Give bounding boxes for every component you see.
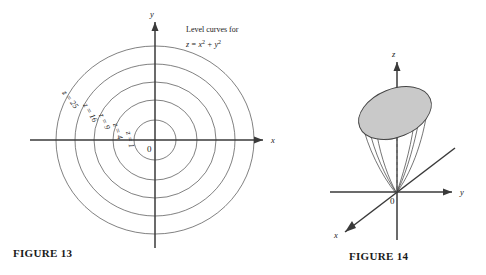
figure-14-x-axis-label: x bbox=[333, 230, 338, 240]
level-label-z9: z = 9 bbox=[97, 111, 112, 131]
figure-13-origin-label: 0 bbox=[147, 144, 152, 154]
annotation-eq-mid: + y bbox=[205, 40, 218, 49]
level-curves-annotation-line1: Level curves for bbox=[186, 25, 239, 34]
annotation-eq-base: z = x bbox=[185, 40, 203, 49]
y-axis-arrowhead bbox=[152, 22, 159, 31]
level-label-z25: z = 25 bbox=[60, 88, 80, 110]
cone-ruling-2 bbox=[377, 135, 396, 192]
figure-14-caption: FIGURE 14 bbox=[349, 250, 408, 262]
figure-13-y-axis-label: y bbox=[149, 9, 154, 19]
level-label-z1: z = 1 bbox=[124, 130, 136, 149]
figure-14-x-axis-line bbox=[345, 148, 455, 232]
figure-14-z-axis-label: z bbox=[391, 49, 396, 59]
figure-14-graphic: y z x 0 bbox=[330, 49, 464, 240]
level-curves-annotation-line2: z = x2 + y2 bbox=[185, 39, 221, 49]
figure-13-graphic: x y 0 Level curves for z = x2 + y2 z = 2… bbox=[0, 0, 486, 275]
figure-13-caption: FIGURE 13 bbox=[13, 247, 72, 259]
figure-14-y-axis-arrowhead bbox=[443, 189, 452, 196]
figure-14-z-axis-arrowhead bbox=[394, 62, 401, 71]
cone-top-ellipse bbox=[351, 77, 439, 150]
figure-14-origin-label: 0 bbox=[390, 196, 395, 206]
figure-14-y-axis-label: y bbox=[459, 187, 464, 197]
level-label-z16: z = 16 bbox=[81, 101, 100, 124]
annotation-eq-sup2: 2 bbox=[218, 39, 221, 45]
figure-page: x y 0 Level curves for z = x2 + y2 z = 2… bbox=[0, 0, 486, 275]
figure-13-x-axis-label: x bbox=[270, 135, 275, 145]
figure-14-x-axis-arrowhead bbox=[345, 221, 356, 232]
figure-13-axes bbox=[30, 22, 263, 248]
x-axis-arrowhead bbox=[254, 137, 263, 144]
